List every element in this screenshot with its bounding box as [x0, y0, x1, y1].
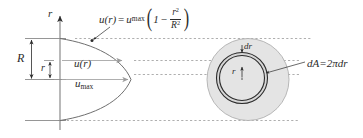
umax-subscript: max [81, 82, 94, 91]
area-element-equation: dA=2πdr [307, 58, 347, 69]
dA-equals: = [319, 57, 326, 69]
fraction-numerator: r2 [171, 7, 180, 18]
ring-radius-label: r [232, 67, 236, 76]
dA-lhs: dA [307, 57, 319, 69]
equation-fraction: r2 R2 [170, 7, 181, 31]
equation-one: 1 [153, 14, 159, 25]
velocity-profile-equation: u(r) = umax ( 1 − r2 R2 ) [99, 7, 191, 31]
equation-umax-subscript: max [132, 15, 145, 22]
left-velocity-profile-diagram [25, 16, 131, 130]
equation-equals: = [118, 14, 124, 25]
max-velocity-label: umax [75, 78, 93, 91]
equation-lhs: u(r) [99, 14, 116, 25]
axis-label-r: r [48, 8, 52, 19]
right-cross-section-diagram [207, 39, 305, 121]
fraction-numerator-exponent: 2 [176, 6, 179, 13]
fraction-denominator-exponent: 2 [177, 19, 180, 26]
equation-anchor-dot [91, 39, 94, 42]
ring-thickness-label: dr [244, 42, 252, 51]
flow-profile-figure: r R r u(r) umax dr r dA=2πdr u(r) = umax… [0, 0, 363, 138]
dimension-label-r: r [41, 63, 45, 73]
velocity-profile-label: u(r) [74, 58, 91, 69]
dA-rhs: 2πdr [327, 57, 348, 69]
fraction-denominator: R2 [170, 20, 181, 31]
equation-minus: − [161, 14, 167, 25]
dimension-label-R: R [17, 52, 24, 64]
